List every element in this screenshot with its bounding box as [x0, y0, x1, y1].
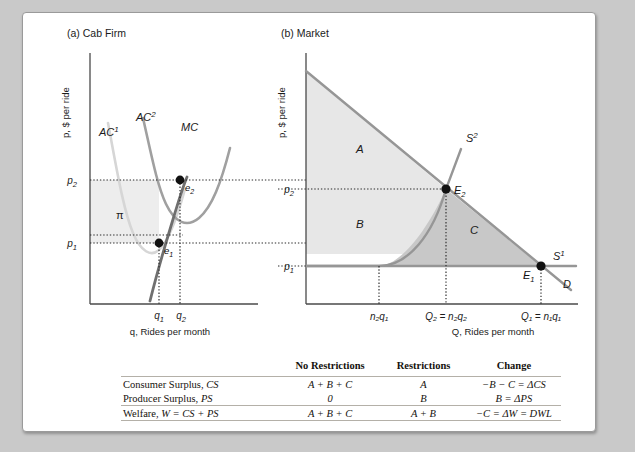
region-label-c: C — [470, 224, 479, 236]
table-row: Consumer Surplus, CS A + B + C A −B − C … — [121, 377, 561, 392]
table-row: Producer Surplus, PS 0 B B = ΔPS — [121, 391, 561, 406]
row-head-text: Consumer Surplus, — [123, 379, 206, 390]
profit-region-shading — [90, 180, 159, 243]
row-head-consumer-surplus: Consumer Surplus, CS — [121, 377, 280, 392]
table-header-blank — [121, 357, 280, 377]
equilibrium-point-E1 — [536, 261, 545, 270]
row-head-text: Welfare, — [123, 408, 161, 419]
equilibrium-point-e2 — [176, 176, 185, 185]
panel-a-tick-q2: q2 — [176, 310, 187, 324]
region-label-a: A — [355, 143, 364, 155]
panel-b: (b) Market p, $ per ride — [276, 27, 578, 337]
panel-b-tick-p2: p2 — [283, 184, 295, 198]
row-head-producer-surplus: Producer Surplus, PS — [121, 391, 280, 406]
cell-cs-restrictions: A — [380, 377, 467, 392]
table-header-row: No Restrictions Restrictions Change — [121, 357, 561, 377]
equilibrium-point-e1 — [155, 239, 164, 248]
panel-b-tick-n2q1: n₂q₁ — [370, 311, 388, 322]
panel-a-tick-q1: q1 — [154, 310, 164, 324]
table-header-restrictions: Restrictions — [380, 357, 467, 377]
panel-b-y-axis-label: p, $ per ride — [276, 87, 287, 138]
row-head-text: Producer Surplus, — [123, 393, 201, 404]
profit-region-label: π — [116, 209, 124, 221]
row-head-symbol: CS — [206, 379, 218, 390]
curve-label-s2: S2 — [466, 131, 478, 144]
panel-b-tick-Q2: Q₂ = n₂q₂ — [425, 311, 467, 322]
point-label-e1: e1 — [164, 245, 173, 258]
cell-ps-change: B = ΔPS — [467, 391, 561, 406]
table-header-no-restrictions: No Restrictions — [280, 357, 380, 377]
cell-w-no-restrictions: A + B + C — [280, 406, 380, 421]
cell-w-change: −C = ΔW = DWL — [467, 406, 561, 421]
cell-ps-restrictions: B — [380, 391, 467, 406]
surplus-table: No Restrictions Restrictions Change Cons… — [121, 357, 561, 421]
curve-label-s1: S1 — [553, 249, 565, 262]
table-row: Welfare, W = CS + PS A + B + C A + B −C … — [121, 406, 561, 421]
row-head-symbol: PS — [201, 393, 213, 404]
panel-a: (a) Cab Firm p, $ per ride — [60, 27, 323, 337]
panel-b-tick-p1: p1 — [283, 261, 294, 275]
panel-b-x-axis-label: Q, Rides per month — [452, 326, 534, 337]
panel-b-title: (b) Market — [281, 27, 329, 39]
cell-w-restrictions: A + B — [380, 406, 467, 421]
point-label-E2: E2 — [454, 184, 466, 199]
economics-figure: (a) Cab Firm p, $ per ride — [23, 13, 595, 353]
cell-cs-change: −B − C = ΔCS — [467, 377, 561, 392]
panel-b-tick-Q1: Q₁ = n₁q₁ — [521, 311, 561, 322]
row-head-symbol: W = CS + PS — [161, 408, 218, 419]
row-head-welfare: Welfare, W = CS + PS — [121, 406, 280, 421]
region-label-b: B — [356, 218, 364, 230]
curve-label-ac2: AC2 — [135, 110, 156, 123]
table-header-change: Change — [467, 357, 561, 377]
equilibrium-point-E2 — [441, 184, 450, 193]
panel-a-x-axis-label: q, Rides per month — [130, 326, 210, 337]
panel-a-tick-p2: p2 — [66, 175, 78, 189]
cell-cs-no-restrictions: A + B + C — [280, 377, 380, 392]
panel-a-title: (a) Cab Firm — [67, 27, 126, 39]
panel-a-tick-p1: p1 — [66, 238, 77, 252]
point-label-e2: e2 — [185, 182, 194, 195]
point-label-E1: E1 — [523, 269, 535, 284]
curve-label-ac1: AC1 — [98, 125, 119, 138]
figure-card: (a) Cab Firm p, $ per ride — [22, 12, 596, 432]
panel-a-y-axis-label: p, $ per ride — [60, 87, 71, 138]
curve-label-d: D — [563, 278, 571, 290]
curve-label-mc: MC — [181, 121, 198, 133]
cell-ps-no-restrictions: 0 — [280, 391, 380, 406]
